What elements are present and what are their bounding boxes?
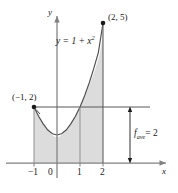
point-marker-right bbox=[101, 21, 106, 26]
fave-label: fave= 2 bbox=[134, 129, 158, 140]
equation-exponent: 2 bbox=[92, 34, 95, 41]
x-tick-label-2: 2 bbox=[100, 168, 105, 178]
x-axis-arrowhead bbox=[160, 160, 167, 165]
x-axis-label: x bbox=[162, 167, 166, 176]
x-tick-label-neg1: −1 bbox=[28, 168, 38, 178]
fave-label-value: = 2 bbox=[145, 128, 157, 138]
equation-label: y = 1 + x2 bbox=[56, 35, 95, 47]
point-label-right: (2, 5) bbox=[108, 13, 128, 22]
equation-label-text: y = 1 + x bbox=[56, 36, 92, 46]
fave-label-subscript: ave bbox=[137, 133, 146, 140]
x-tick-label-0: 0 bbox=[48, 168, 53, 178]
point-label-left: (−1, 2) bbox=[12, 93, 37, 102]
point-marker-left bbox=[32, 105, 37, 110]
y-axis-label: y bbox=[48, 8, 52, 17]
y-axis-arrowhead bbox=[54, 16, 59, 23]
figure-container: y x y = 1 + x2 (−1, 2) (2, 5) fave= 2 −1… bbox=[0, 0, 178, 193]
x-tick-label-1: 1 bbox=[77, 168, 82, 178]
